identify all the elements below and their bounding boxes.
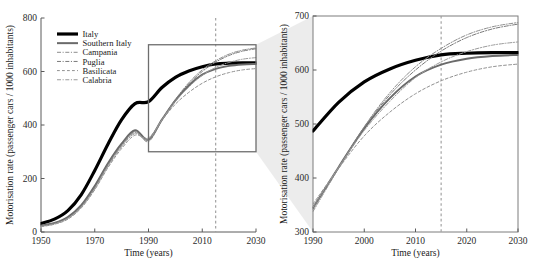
x-tick-label: 2020 <box>457 236 476 246</box>
chart-figure: 195019701990201020300200400600800Time (y… <box>0 0 535 277</box>
x-tick-label: 1970 <box>85 236 104 246</box>
legend-label-calabria: Calabria <box>83 75 112 85</box>
y-tick-label: 500 <box>295 119 310 129</box>
y-tick-label: 300 <box>295 227 310 237</box>
series-line-campania <box>313 22 518 211</box>
y-tick-label: 600 <box>295 65 310 75</box>
x-tick-label: 2030 <box>509 236 528 246</box>
zoom-region-box <box>149 45 257 152</box>
y-tick-label: 800 <box>23 13 38 23</box>
x-tick-label: 2010 <box>193 236 212 246</box>
y-tick-label: 400 <box>295 173 310 183</box>
left-panel: 195019701990201020300200400600800Time (y… <box>5 13 266 259</box>
y-axis-title: Motorisation rate (passenger cars / 1000… <box>279 24 290 224</box>
y-tick-label: 400 <box>23 120 38 130</box>
y-tick-label: 0 <box>32 227 37 237</box>
plot-frame <box>313 16 518 232</box>
y-tick-label: 700 <box>295 11 310 21</box>
x-axis-title: Time (years) <box>391 248 439 259</box>
series-line-basilicata <box>313 64 518 204</box>
x-tick-label: 2000 <box>355 236 374 246</box>
y-tick-label: 200 <box>23 174 38 184</box>
figure-root: 195019701990201020300200400600800Time (y… <box>0 0 535 277</box>
x-tick-label: 2030 <box>247 236 266 246</box>
y-tick-label: 600 <box>23 67 38 77</box>
x-tick-label: 2010 <box>406 236 425 246</box>
x-axis-title: Time (years) <box>124 248 172 259</box>
y-axis-title: Motorisation rate (passenger cars / 1000… <box>5 25 16 225</box>
x-tick-label: 1990 <box>139 236 158 246</box>
series-layer <box>313 22 518 211</box>
right-panel: 19902000201020202030300400500600700Time … <box>279 11 528 259</box>
series-line-italy <box>313 53 518 131</box>
